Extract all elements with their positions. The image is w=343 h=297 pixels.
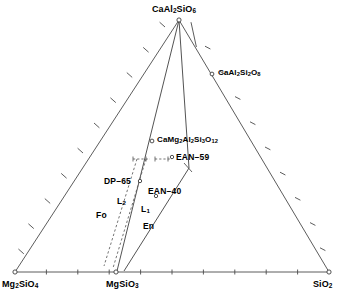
ternary-phase-diagram: CaAl2SiO6 Mg2SiO4 SiO2 MgSiO3 CaAl2Si2O8…	[0, 0, 343, 297]
field-label-l1: L1	[141, 205, 150, 214]
diagram-canvas	[0, 0, 343, 297]
marker-ean-59	[170, 155, 173, 158]
apex-label-top: CaAl2SiO6	[152, 5, 196, 14]
composition-markers	[13, 18, 331, 274]
marker-caal2si2o8	[210, 72, 214, 76]
marker-dp-65	[138, 179, 141, 182]
marker-sio2	[327, 270, 331, 274]
marker-camg2al2si3o12	[150, 139, 154, 143]
leader-ean59	[184, 163, 192, 172]
point-label-dp-65: DP–65	[104, 177, 131, 186]
field-label-en: En	[143, 222, 154, 231]
join-lines	[117, 20, 189, 271]
point-label-ean-59: EAN–59	[176, 153, 209, 162]
field-label-l2: L2	[117, 197, 126, 206]
marker-mgsio3	[114, 270, 118, 274]
edge-left	[15, 20, 179, 272]
edge-label-caal2si2o8: CaAl2Si2O8	[218, 69, 261, 77]
point-label-camg2al2si3o12: CaMg2Al2Si3O12	[157, 136, 218, 144]
marker-mg2sio4	[13, 270, 17, 274]
edge-label-mgsio3: MgSiO3	[106, 280, 139, 289]
point-label-ean-40: EAN–40	[148, 187, 181, 196]
apex-label-bottom-right: SiO2	[313, 280, 333, 289]
marker-caal2sio6	[177, 18, 181, 22]
ticks-left-edge	[18, 22, 165, 254]
line-apex-to-en-boundary	[179, 20, 189, 168]
line-en-boundary-lower	[124, 168, 189, 271]
triangle-edges	[15, 20, 329, 272]
apex-label-bottom-left: Mg2SiO4	[2, 280, 38, 289]
field-label-fo: Fo	[96, 211, 107, 220]
tie-line-upper	[133, 157, 172, 162]
edge-right	[179, 20, 329, 272]
